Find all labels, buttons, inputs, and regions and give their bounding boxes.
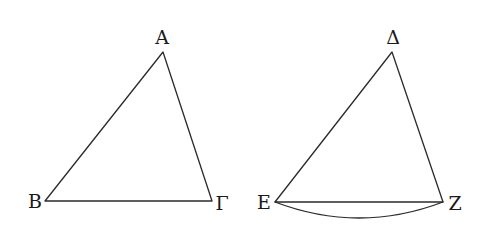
geometry-figure: Α Β Γ Δ Ε Ζ [0,0,483,228]
triangle-abg: Α Β Γ [28,26,229,214]
label-delta: Δ [386,26,400,48]
label-zeta: Ζ [448,192,461,214]
label-alpha: Α [154,26,169,48]
label-beta: Β [28,190,42,212]
triangle-dez-outline [275,52,443,202]
label-gamma: Γ [215,192,228,214]
label-epsilon: Ε [257,191,271,213]
triangle-abg-outline [45,52,212,201]
triangle-dez: Δ Ε Ζ [257,26,462,218]
arc-ez [275,202,443,218]
